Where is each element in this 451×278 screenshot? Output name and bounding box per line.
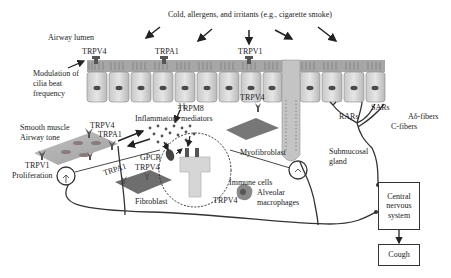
myofibroblast-sheet xyxy=(226,103,279,140)
cns-label-2: nervous xyxy=(386,201,411,211)
smooth-muscle-label: Smooth muscle xyxy=(20,123,70,132)
inflammatory-mediators-label: Inflammatory mediators xyxy=(135,114,213,123)
cns-label-3: system xyxy=(388,211,410,221)
trpv4-fibroblast-label: TRPV4 xyxy=(135,163,159,172)
trpv1-epithelium-label: TRPV1 xyxy=(238,47,262,56)
trpm8-label: TRPM8 xyxy=(178,104,204,113)
c-fibers-label: C-fibers xyxy=(391,122,417,131)
trpv4-immune-label: TRPV4 xyxy=(213,196,237,205)
cns-label-1: Central xyxy=(387,192,411,202)
fibroblast-label: Fibroblast xyxy=(135,197,167,206)
alveolar-label-2: macrophages xyxy=(257,198,299,207)
cough-box: Cough xyxy=(378,244,420,266)
stimulus-label: Cold, allergens, and irritants (e.g., ci… xyxy=(168,10,332,19)
adelta-fibers-label: Aδ-fibers xyxy=(408,112,438,121)
proliferation-label: Proliferation xyxy=(12,171,52,180)
myofibroblast-label: Myofibroblast xyxy=(240,148,286,157)
immune-cells-label: Immune cells xyxy=(229,178,272,187)
trpv4-epithelium-label: TRPV4 xyxy=(82,47,106,56)
trpv4-myofibroblast-label: TRPV4 xyxy=(240,93,264,102)
cough-label: Cough xyxy=(388,250,409,260)
alveolar-label-1: Alveolar xyxy=(257,188,285,197)
airway-tone-label: Airway tone xyxy=(20,133,60,142)
stimulus-arrows xyxy=(146,27,336,44)
gpcr-label: GPCR xyxy=(140,153,161,162)
submucosal-gland-label-1: Submucosal xyxy=(329,147,368,156)
modulation-label-3: frequency xyxy=(33,89,65,98)
submucosal-gland-label-2: gland xyxy=(329,157,347,166)
epithelial-cells xyxy=(87,72,385,102)
trpv4-smooth-muscle-label: TRPV4 xyxy=(90,121,114,130)
submucosal-gland xyxy=(282,60,300,161)
epithelium xyxy=(87,60,385,102)
trpa1-smooth-muscle-label: TRPA1 xyxy=(98,130,122,139)
airway-lumen-label: Airway lumen xyxy=(48,33,94,42)
trpa1-epithelium-label: TRPA1 xyxy=(155,47,179,56)
modulation-label-1: Modulation of xyxy=(33,69,79,78)
rars-label: RARs xyxy=(339,112,359,121)
trpv1-smooth-muscle-label: TRPV1 xyxy=(25,161,49,170)
sars-label: SARs xyxy=(371,103,390,112)
cns-box: Central nervous system xyxy=(378,182,420,230)
modulation-label-2: cilia beat xyxy=(33,79,62,88)
